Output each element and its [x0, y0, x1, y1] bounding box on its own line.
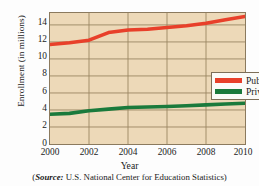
source-label: Source: — [35, 172, 63, 182]
chart-legend: Public Private — [211, 72, 259, 100]
y-tick-label: 12 — [27, 35, 47, 44]
x-tick-label: 2002 — [80, 147, 99, 157]
y-tick-label: 10 — [27, 52, 47, 61]
legend-item-private: Private — [215, 86, 259, 97]
series-line-public — [50, 16, 245, 44]
series-line-private — [50, 103, 245, 114]
x-axis-title: Year — [0, 160, 259, 171]
y-tick-label: 14 — [27, 18, 47, 27]
x-tick-label: 2006 — [158, 147, 177, 157]
legend-swatch-private — [215, 89, 242, 94]
chart-figure: Enrollment (in millions) 0 2 4 6 8 10 12… — [0, 0, 259, 186]
y-tick-label: 8 — [27, 69, 47, 78]
y-tick-label: 2 — [27, 121, 47, 130]
legend-item-public: Public — [215, 75, 259, 86]
plot-area: Public Private — [49, 12, 246, 145]
x-tick-label: 2000 — [41, 147, 60, 157]
legend-swatch-public — [215, 78, 242, 83]
x-tick-label: 2004 — [119, 147, 138, 157]
y-tick-label: 4 — [27, 104, 47, 113]
x-tick-label: 2008 — [197, 147, 216, 157]
legend-label-public: Public — [246, 76, 259, 86]
source-text: U.S. National Center for Education Stati… — [64, 172, 227, 182]
x-axis-tick-labels: 2000 2002 2004 2006 2008 2010 — [0, 147, 259, 161]
source-caption: (Source: U.S. National Center for Educat… — [0, 172, 259, 182]
legend-label-private: Private — [246, 87, 259, 97]
x-tick-label: 2010 — [234, 147, 253, 157]
y-tick-label: 6 — [27, 87, 47, 96]
